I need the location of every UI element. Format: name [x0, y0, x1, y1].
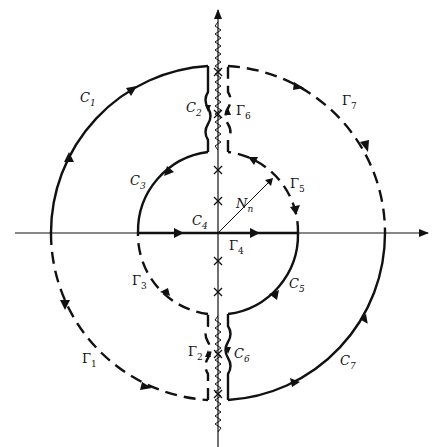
lower-branch-cut-zigzag	[215, 316, 221, 432]
label-C4: C4	[192, 213, 208, 231]
contour-C6	[226, 314, 231, 400]
arrow-Gamma5-lower	[290, 205, 300, 215]
label-Gamma4: Γ4	[229, 238, 244, 256]
arrow-C4	[174, 228, 184, 238]
label-C1: C1	[80, 90, 96, 108]
arrow-Gamma4	[250, 228, 260, 238]
label-C7: C7	[340, 353, 356, 371]
label-Gamma7: Γ7	[342, 93, 357, 111]
label-Gamma6: Γ6	[236, 103, 251, 121]
label-Gamma2: Γ2	[188, 344, 203, 362]
label-C6: C6	[234, 346, 250, 364]
label-Gamma3: Γ3	[132, 273, 147, 291]
label-C5: C5	[289, 276, 305, 294]
contour-Gamma3	[138, 233, 208, 314]
contour-Gamma5	[228, 152, 298, 233]
contour-Gamma1	[51, 233, 208, 400]
label-radius-Nn: Nn	[235, 196, 253, 214]
label-C2: C2	[186, 100, 202, 118]
label-Gamma5: Γ5	[290, 176, 305, 194]
contour-C7	[228, 233, 385, 400]
label-C3: C3	[130, 173, 146, 191]
label-Gamma1: Γ1	[82, 351, 97, 369]
arrow-C1-lower	[64, 152, 74, 162]
contour-diagram: C1 C2 C3 C4 C5 C6 C7 Γ1 Γ2 Γ3 Γ4 Γ5 Γ6 Γ…	[0, 0, 443, 447]
